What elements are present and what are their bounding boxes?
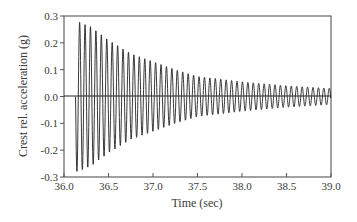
- x-tick-label: 36.5: [99, 180, 119, 192]
- x-tick-label: 38.0: [232, 180, 252, 192]
- y-tick-label: -0.2: [41, 144, 58, 156]
- y-tick-label: 0.1: [44, 64, 58, 76]
- x-tick-label: 39.0: [321, 180, 341, 192]
- y-axis-ticks: 0.30.20.10.0-0.1-0.2-0.3: [41, 10, 64, 183]
- x-tick-label: 38.5: [277, 180, 297, 192]
- y-tick-label: 0.3: [44, 10, 58, 22]
- x-tick-label: 37.5: [188, 180, 208, 192]
- y-tick-label: 0.2: [44, 37, 58, 49]
- x-tick-label: 36.0: [54, 180, 74, 192]
- y-tick-label: 0.0: [44, 91, 58, 103]
- x-tick-label: 37.0: [143, 180, 163, 192]
- chart: 0.30.20.10.0-0.1-0.2-0.3 36.036.537.037.…: [0, 0, 357, 222]
- x-axis-title: Time (sec): [171, 196, 222, 210]
- y-axis-title: Crest rel. acceleration (g): [16, 35, 30, 157]
- signal-trace: [76, 22, 331, 171]
- y-tick-label: -0.1: [41, 117, 58, 129]
- x-axis-ticks: 36.036.537.037.538.038.539.0: [54, 173, 341, 192]
